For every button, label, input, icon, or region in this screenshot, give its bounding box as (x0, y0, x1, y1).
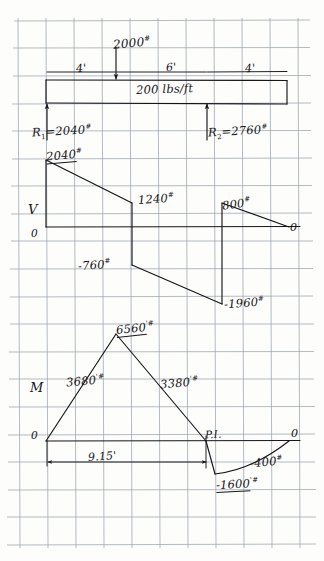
shear-value-760: -760# (78, 257, 112, 273)
pi-dimension-label: 9.15' (88, 450, 117, 463)
reaction-left-label: R1=2040# (32, 122, 92, 140)
shear-value-1240: 1240# (138, 191, 175, 207)
distributed-load-label: 200 lbs/ft (136, 83, 194, 96)
moment-zero-right: 0 (291, 428, 298, 439)
moment-min-label: -1600'# (216, 476, 259, 492)
moment-tail-label: -400# (249, 454, 283, 470)
moment-zero-left: 0 (31, 430, 38, 441)
shear-diagram-curve (46, 160, 300, 304)
shear-zero-right: 0 (290, 222, 297, 233)
shear-value-1960: -1960# (224, 295, 265, 311)
graph-paper-sheet: 2000# 4' 6' 4' 200 lbs/ft R1=2040# R2=27… (0, 0, 324, 561)
span-mid-label: 6' (166, 62, 177, 74)
span-left-label: 4' (76, 63, 87, 75)
moment-axis-label: M (30, 381, 44, 394)
moment-diagram-curve (46, 334, 300, 474)
moment-inflection-label: P.I. (205, 429, 222, 440)
reaction-right-label: R2=2760# (208, 122, 268, 140)
shear-zero-left: 0 (31, 228, 38, 239)
span-right-label: 4' (245, 63, 256, 75)
shear-axis-label: V (28, 203, 38, 216)
